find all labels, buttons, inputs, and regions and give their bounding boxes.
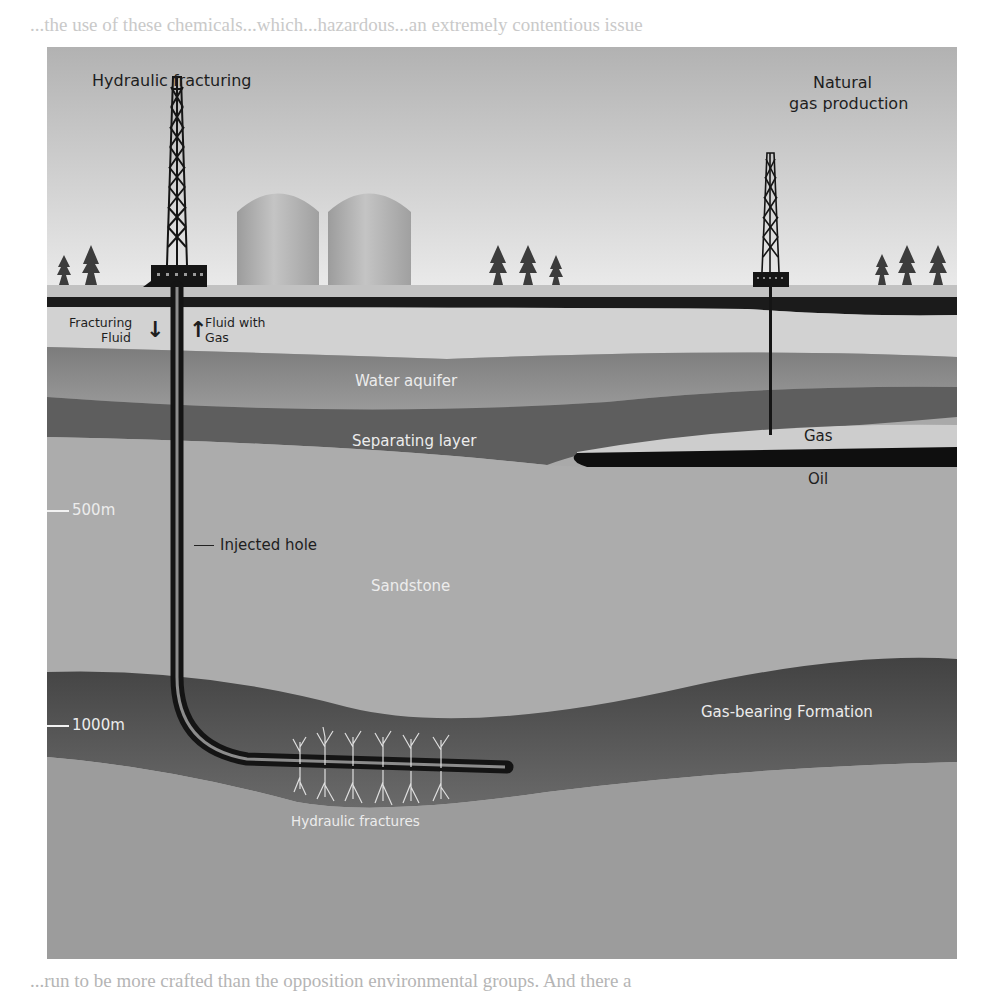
- production-derrick-base: [753, 272, 789, 287]
- label-gas-bearing-formation: Gas-bearing Formation: [701, 703, 873, 721]
- hydraulic-fracturing-diagram: Hydraulic fracturing Natural gas product…: [47, 47, 957, 959]
- depth-label-1000m: 1000m: [72, 716, 125, 734]
- label-injected-hole: Injected hole: [194, 536, 317, 554]
- page-body-text-bottom: ...run to be more crafted than the oppos…: [30, 970, 990, 992]
- leader-line: [194, 545, 214, 546]
- depth-tick-1000: [47, 725, 69, 727]
- label-injected-hole-text: Injected hole: [220, 536, 317, 554]
- depth-tick-500: [47, 510, 69, 512]
- title-gas-production-line2: gas production: [789, 94, 908, 113]
- label-hydraulic-fractures: Hydraulic fractures: [291, 813, 420, 829]
- label-separating-layer: Separating layer: [352, 432, 476, 450]
- production-well: [769, 287, 772, 435]
- label-oil: Oil: [808, 470, 828, 488]
- depth-label-500m: 500m: [72, 501, 115, 519]
- title-natural-line1: Natural: [813, 73, 872, 92]
- storage-tank-2: [328, 194, 411, 288]
- arrow-down-icon: ↓: [146, 317, 164, 342]
- label-fluid-with-gas: Fluid with Gas: [205, 315, 266, 345]
- title-hydraulic-fracturing: Hydraulic fracturing: [92, 71, 252, 90]
- label-fluid-with-gas-line1: Fluid with: [205, 315, 266, 330]
- label-sandstone: Sandstone: [371, 577, 450, 595]
- label-fracturing-fluid: Fracturing Fluid: [69, 315, 131, 345]
- label-gas: Gas: [804, 427, 833, 445]
- label-fracturing-fluid-line1: Fracturing: [69, 315, 131, 330]
- label-water-aquifer: Water aquifer: [355, 372, 457, 390]
- label-fracturing-fluid-line2: Fluid: [69, 330, 131, 345]
- label-fluid-with-gas-line2: Gas: [205, 330, 266, 345]
- diagram-artwork: [47, 47, 957, 959]
- storage-tank-1: [237, 194, 319, 288]
- page-body-text-top: ...the use of these chemicals...which...…: [30, 14, 990, 36]
